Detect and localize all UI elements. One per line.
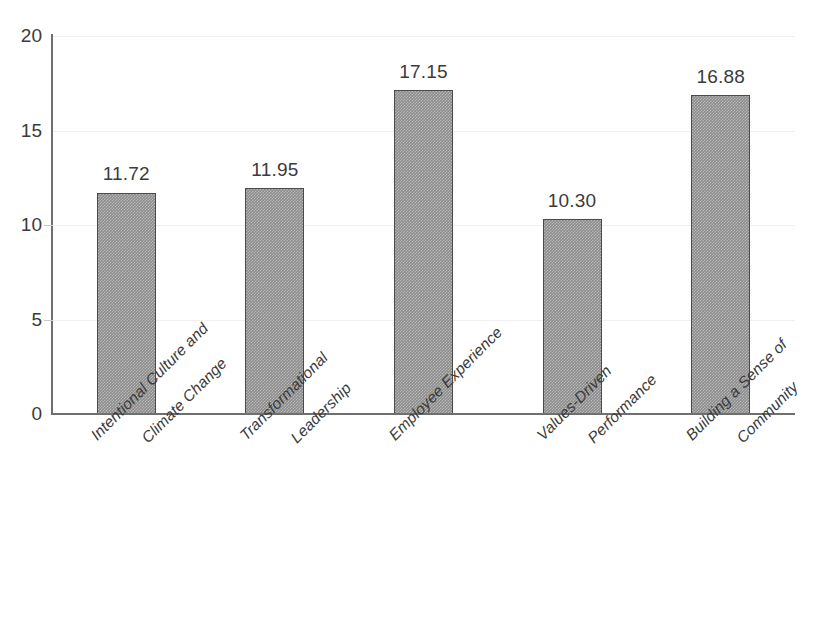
bar-value-label: 10.30 xyxy=(522,190,622,212)
y-tick-label-0: 0 xyxy=(8,403,42,425)
y-tick-stub-5 xyxy=(44,320,53,321)
y-tick-label-10: 10 xyxy=(8,214,42,236)
y-tick-stub-10 xyxy=(44,225,53,226)
y-tick-label-20: 20 xyxy=(8,25,42,47)
bar-value-label: 16.88 xyxy=(671,66,771,88)
gridline-20 xyxy=(52,36,795,37)
y-tick-label-15: 15 xyxy=(8,120,42,142)
bar-value-label: 11.95 xyxy=(225,159,325,181)
bar-chart: 05101520 11.7211.9517.1510.3016.88 Inten… xyxy=(0,0,822,630)
bar[interactable] xyxy=(394,90,453,414)
bar-value-label: 17.15 xyxy=(374,61,474,83)
bar[interactable] xyxy=(691,95,750,414)
y-tick-label-5: 5 xyxy=(8,309,42,331)
bar-value-label: 11.72 xyxy=(76,163,176,185)
